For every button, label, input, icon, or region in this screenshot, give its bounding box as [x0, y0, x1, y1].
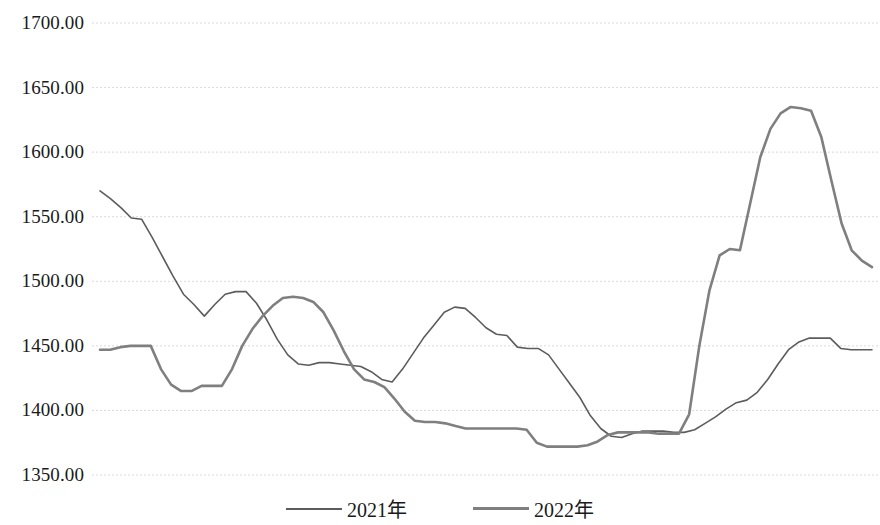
legend-line-icon-2021	[286, 508, 342, 510]
y-tick-label: 1700.00	[22, 12, 84, 34]
legend-label-2022: 2022年	[534, 494, 594, 523]
series-lines	[0, 0, 880, 490]
y-tick-label: 1500.00	[22, 270, 84, 292]
y-tick-label: 1550.00	[22, 206, 84, 228]
legend-item-2022[interactable]: 2022年	[473, 494, 594, 523]
y-tick-label: 1400.00	[22, 399, 84, 421]
series-line-2022	[100, 107, 872, 447]
y-tick-label: 1650.00	[22, 77, 84, 99]
legend-line-icon-2022	[473, 507, 529, 510]
series-line-2021	[100, 191, 872, 438]
legend-label-2021: 2021年	[347, 494, 407, 523]
chart-legend: 2021年 2022年	[0, 492, 880, 525]
plot-area	[0, 0, 880, 490]
line-chart: 1350.001400.001450.001500.001550.001600.…	[0, 0, 880, 525]
y-tick-label: 1450.00	[22, 335, 84, 357]
y-tick-label: 1350.00	[22, 464, 84, 486]
y-tick-label: 1600.00	[22, 141, 84, 163]
legend-item-2021[interactable]: 2021年	[286, 494, 407, 523]
y-axis: 1350.001400.001450.001500.001550.001600.…	[0, 0, 92, 490]
